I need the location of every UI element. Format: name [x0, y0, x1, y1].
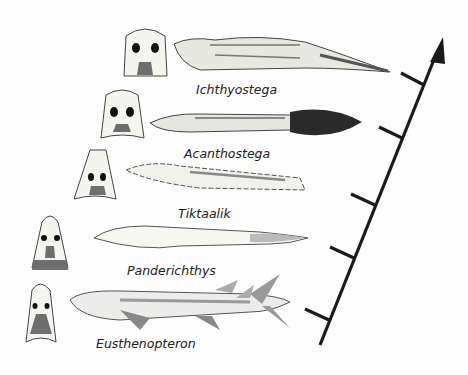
label-ichthyostega: Ichthyostega	[196, 82, 277, 97]
diagram-graphics	[0, 0, 468, 375]
tiktaalik-body	[126, 164, 305, 190]
label-panderichthys: Panderichthys	[127, 263, 216, 278]
time-arrow	[305, 52, 437, 345]
label-acanthostega: Acanthostega	[184, 146, 270, 161]
panderichthys-skull	[32, 216, 68, 270]
evolution-diagram: Ichthyostega Acanthostega Tiktaalik Pand…	[0, 0, 468, 375]
eusthenopteron-skull	[26, 284, 56, 342]
ichthyostega-skull	[124, 29, 167, 76]
ichthyostega-body	[174, 37, 390, 72]
tiktaalik-skull	[74, 150, 116, 199]
acanthostega-skull	[101, 90, 144, 138]
label-tiktaalik: Tiktaalik	[178, 206, 231, 221]
label-eusthenopteron: Eusthenopteron	[96, 336, 196, 351]
eusthenopteron-body	[70, 274, 290, 330]
arrow-head-icon	[430, 37, 445, 64]
panderichthys-body	[94, 226, 308, 248]
acanthostega-body	[150, 110, 362, 136]
